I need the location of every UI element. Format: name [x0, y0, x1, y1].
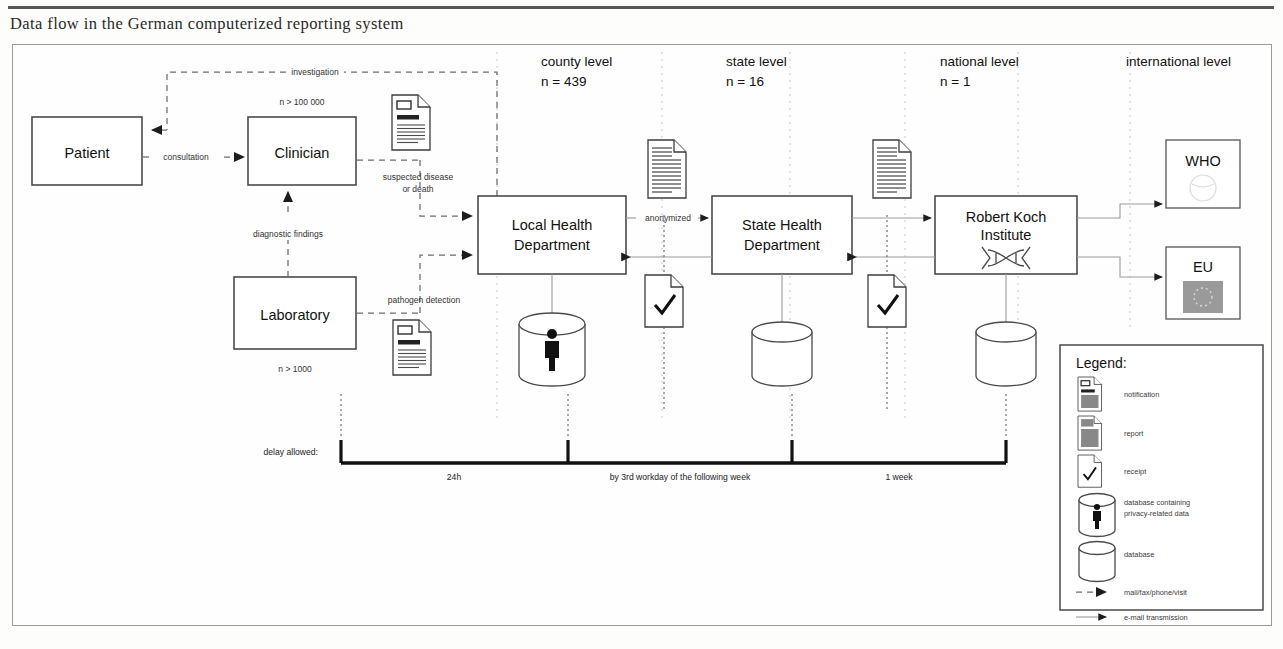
edge-rki-to-eu	[1077, 257, 1162, 277]
report-icon	[648, 140, 686, 198]
legend-label: e-mail transmission	[1124, 613, 1188, 622]
notification-icon	[393, 320, 431, 375]
legend-label: report	[1124, 429, 1143, 438]
column-title: national level	[940, 54, 1019, 69]
column-count: n = 439	[541, 74, 586, 89]
legend-label: receipt	[1124, 467, 1146, 476]
legend-label: notification	[1124, 390, 1159, 399]
receipt-icon	[868, 275, 906, 327]
node-label-line2: Department	[744, 237, 820, 253]
receipt-icon	[1078, 455, 1102, 487]
node-count-laboratory: n > 1000	[278, 364, 312, 374]
database-privacy-icon	[519, 274, 585, 386]
edge-label-pathogen-detection: pathogen detection	[388, 295, 461, 305]
column-header-international: international level	[1126, 54, 1231, 69]
column-title: international level	[1126, 54, 1231, 69]
timeline-segment-label: 1 week	[885, 472, 913, 482]
database-icon	[752, 274, 812, 386]
legend-label: mail/fax/phone/visit	[1124, 588, 1187, 597]
legend-label-line1: database containing	[1124, 498, 1190, 507]
report-icon	[1078, 416, 1102, 450]
figure-page: Data flow in the German computerized rep…	[0, 0, 1283, 649]
edge-suspected-disease: suspected disease or death	[357, 160, 472, 216]
node-robert-koch-institute: Robert Koch Institute	[935, 196, 1077, 274]
legend-label: database	[1124, 550, 1154, 559]
edge-label-anonymized: anonymized	[645, 213, 691, 223]
column-header-state: state level n = 16	[726, 54, 787, 89]
edge-rki-to-who	[1077, 204, 1162, 218]
edge-consultation: consultation	[143, 152, 244, 162]
node-label-line1: Local Health	[512, 217, 593, 233]
timeline-label: delay allowed:	[264, 447, 318, 457]
node-label-line2: Institute	[981, 227, 1032, 243]
column-title: state level	[726, 54, 787, 69]
node-label-line1: State Health	[742, 217, 822, 233]
receipt-icon	[645, 275, 683, 327]
node-state-health-department: State Health Department	[712, 196, 852, 274]
database-icon	[976, 274, 1036, 386]
legend-label-line2: privacy-related data	[1124, 509, 1190, 518]
timeline: delay allowed: 24h by 3rd workday of the…	[264, 394, 1006, 482]
column-count: n = 1	[940, 74, 970, 89]
legend-row-email-transmission: e-mail transmission	[1076, 613, 1188, 622]
node-eu: EU	[1166, 247, 1240, 319]
database-privacy-icon	[1079, 494, 1115, 537]
node-label: Laboratory	[260, 307, 330, 323]
notification-icon	[392, 95, 430, 150]
data-flow-diagram: county level n = 439 state level n = 16 …	[0, 0, 1283, 649]
legend: Legend: notification	[1060, 345, 1263, 622]
edge-diagnostic-findings: diagnostic findings	[253, 192, 323, 277]
legend-title: Legend:	[1076, 355, 1127, 371]
edge-pathogen-detection: pathogen detection	[357, 255, 472, 313]
column-title: county level	[541, 54, 612, 69]
node-count-clinician: n > 100 000	[279, 97, 324, 107]
edge-label-diagnostic-findings: diagnostic findings	[253, 229, 323, 239]
column-header-county: county level n = 439	[541, 54, 612, 89]
node-patient: Patient	[32, 117, 142, 185]
column-header-national: national level n = 1	[940, 54, 1019, 89]
node-label: Patient	[64, 145, 109, 161]
node-who: WHO	[1166, 140, 1240, 208]
node-label-line1: Robert Koch	[966, 209, 1047, 225]
edge-label-suspected-1: suspected disease	[383, 172, 454, 182]
edge-label-consultation: consultation	[163, 152, 209, 162]
edge-label-investigation: investigation	[291, 67, 339, 77]
node-label-line2: Department	[514, 237, 590, 253]
node-label: Clinician	[275, 145, 330, 161]
edge-anonymized: anonymized	[626, 213, 708, 223]
eu-flag-icon	[1183, 281, 1223, 313]
notification-icon	[1078, 377, 1102, 411]
node-local-health-department: Local Health Department	[478, 196, 626, 274]
timeline-segment-label: 24h	[447, 472, 462, 482]
column-count: n = 16	[726, 74, 764, 89]
node-laboratory: Laboratory n > 1000	[234, 277, 356, 374]
node-label: EU	[1193, 259, 1213, 275]
node-clinician: Clinician n > 100 000	[248, 97, 356, 185]
node-label: WHO	[1185, 153, 1220, 169]
report-icon	[873, 140, 911, 198]
timeline-segment-label: by 3rd workday of the following week	[610, 472, 751, 482]
edge-label-suspected-2: or death	[402, 184, 433, 194]
